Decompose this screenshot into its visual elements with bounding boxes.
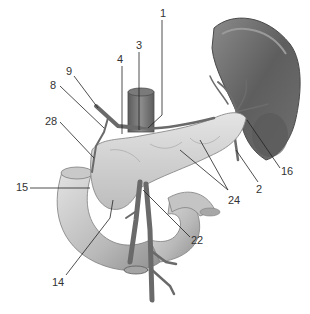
label-24: 24 bbox=[228, 195, 240, 206]
label-28: 28 bbox=[45, 116, 57, 127]
label-1: 1 bbox=[160, 8, 166, 19]
label-4: 4 bbox=[117, 54, 123, 65]
label-2: 2 bbox=[256, 184, 262, 195]
leader-line-2 bbox=[236, 150, 258, 182]
label-22: 22 bbox=[191, 235, 203, 246]
leader-line-28 bbox=[60, 122, 94, 158]
label-16: 16 bbox=[281, 166, 293, 177]
anatomy-diagram: 1 3 4 9 8 28 15 14 22 24 2 16 bbox=[0, 0, 310, 314]
label-14: 14 bbox=[52, 277, 64, 288]
label-8: 8 bbox=[50, 80, 56, 91]
label-15: 15 bbox=[16, 182, 28, 193]
label-9: 9 bbox=[66, 66, 72, 77]
label-3: 3 bbox=[136, 40, 142, 51]
illustration bbox=[0, 0, 310, 314]
